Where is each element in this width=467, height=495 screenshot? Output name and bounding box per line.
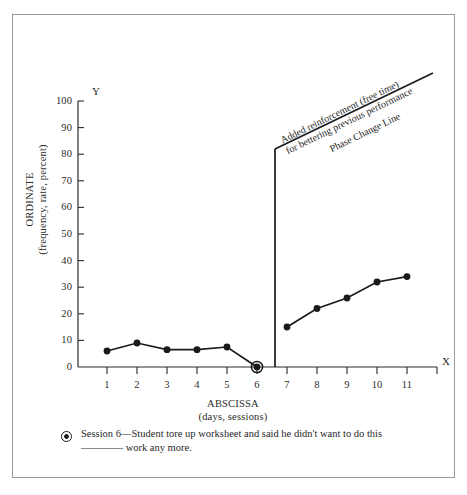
- series-intervention-line: [287, 277, 407, 327]
- series-intervention-points: [284, 273, 411, 330]
- ordinate-title: ORDINATE: [24, 125, 37, 275]
- y-tick-label-100: 100: [46, 95, 72, 106]
- x-tick-label-7: 7: [276, 379, 298, 390]
- x-tick-label-5: 5: [216, 379, 238, 390]
- x-tick-label-6: 6: [246, 379, 268, 390]
- x-tick-marks: [107, 367, 437, 374]
- y-tick-label-40: 40: [46, 255, 72, 266]
- plot-stage: Y X 100 90 80 70 60 50 40 30 20 10 0 1 2…: [13, 15, 454, 477]
- ordinate-subtitle: (frequency, rate, percent): [36, 125, 49, 275]
- y-tick-label-10: 10: [46, 334, 72, 345]
- x-tick-label-4: 4: [186, 379, 208, 390]
- footnote-text: Session 6—Student tore up worksheet and …: [81, 427, 421, 455]
- y-tick-label-50: 50: [46, 228, 72, 239]
- x-tick-label-11: 11: [396, 379, 418, 390]
- x-tick-label-2: 2: [126, 379, 148, 390]
- y-tick-label-20: 20: [46, 308, 72, 319]
- y-tick-marks: [78, 101, 84, 340]
- abscissa-title: ABSCISSA: [163, 397, 303, 410]
- x-tick-label-1: 1: [96, 379, 118, 390]
- y-tick-label-70: 70: [46, 175, 72, 186]
- y-tick-label-90: 90: [46, 122, 72, 133]
- figure-footnote: Session 6—Student tore up worksheet and …: [61, 427, 421, 455]
- abscissa-axis-label: ABSCISSA (days, sessions): [163, 397, 303, 423]
- y-tick-label-0: 0: [46, 361, 72, 372]
- y-tick-label-60: 60: [46, 201, 72, 212]
- y-axis-letter: Y: [92, 85, 100, 97]
- figure-frame: Y X 100 90 80 70 60 50 40 30 20 10 0 1 2…: [12, 14, 455, 478]
- ringed-dot-icon: [61, 431, 72, 442]
- y-tick-label-80: 80: [46, 148, 72, 159]
- abscissa-subtitle: (days, sessions): [163, 410, 303, 423]
- x-tick-label-8: 8: [306, 379, 328, 390]
- x-axis-letter: X: [442, 355, 450, 367]
- x-tick-label-3: 3: [156, 379, 178, 390]
- y-tick-label-30: 30: [46, 281, 72, 292]
- x-tick-label-9: 9: [336, 379, 358, 390]
- series-baseline-line: [107, 343, 257, 367]
- ordinate-axis-label: ORDINATE (frequency, rate, percent): [24, 125, 49, 275]
- x-tick-label-10: 10: [366, 379, 388, 390]
